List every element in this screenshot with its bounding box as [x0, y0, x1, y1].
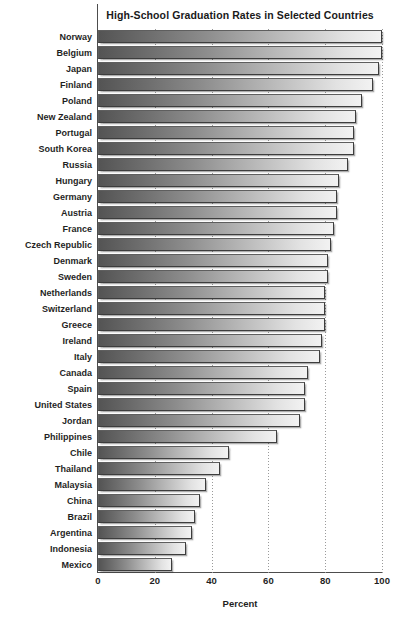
- bar-row: [98, 302, 382, 315]
- category-label-argentina: Argentina: [5, 527, 97, 539]
- bar: [98, 222, 334, 235]
- bar: [98, 398, 305, 411]
- x-tick-20: 20: [150, 575, 161, 586]
- bar-row: [98, 334, 382, 347]
- bar-row: [98, 110, 382, 123]
- category-label-jordan: Jordan: [5, 415, 97, 427]
- category-label-austria: Austria: [5, 207, 97, 219]
- category-label-mexico: Mexico: [5, 559, 97, 571]
- bar-row: [98, 222, 382, 235]
- category-label-russia: Russia: [5, 159, 97, 171]
- bar-row: [98, 526, 382, 539]
- category-label-brazil: Brazil: [5, 511, 97, 523]
- bar: [98, 158, 348, 171]
- category-label-germany: Germany: [5, 191, 97, 203]
- bar-row: [98, 462, 382, 475]
- category-label-denmark: Denmark: [5, 255, 97, 267]
- bar-row: [98, 174, 382, 187]
- bar-row: [98, 494, 382, 507]
- bar-row: [98, 286, 382, 299]
- bar: [98, 286, 325, 299]
- bar-row: [98, 430, 382, 443]
- category-label-spain: Spain: [5, 383, 97, 395]
- bar: [98, 94, 362, 107]
- category-label-ireland: Ireland: [5, 335, 97, 347]
- bar-row: [98, 190, 382, 203]
- bar: [98, 510, 195, 523]
- bar: [98, 126, 354, 139]
- bar: [98, 478, 206, 491]
- bar-row: [98, 158, 382, 171]
- bar: [98, 446, 229, 459]
- category-axis-labels: NorwayBelgiumJapanFinlandPolandNew Zeala…: [0, 29, 97, 573]
- bar-row: [98, 78, 382, 91]
- bar: [98, 366, 308, 379]
- bar: [98, 46, 382, 59]
- category-label-italy: Italy: [5, 351, 97, 363]
- bar-row: [98, 366, 382, 379]
- bar: [98, 382, 305, 395]
- category-label-poland: Poland: [5, 95, 97, 107]
- bar: [98, 206, 337, 219]
- bar: [98, 190, 337, 203]
- bar: [98, 542, 186, 555]
- bar: [98, 526, 192, 539]
- category-label-finland: Finland: [5, 79, 97, 91]
- bar-row: [98, 558, 382, 571]
- bar-row: [98, 126, 382, 139]
- bar-row: [98, 238, 382, 251]
- x-axis-title: Percent: [98, 598, 382, 609]
- category-label-portugal: Portugal: [5, 127, 97, 139]
- x-tick-100: 100: [374, 575, 390, 586]
- category-label-japan: Japan: [5, 63, 97, 75]
- category-label-czech-republic: Czech Republic: [5, 239, 97, 251]
- category-label-canada: Canada: [5, 367, 97, 379]
- x-axis-tick-labels: 020406080100: [98, 575, 382, 591]
- category-label-chile: Chile: [5, 447, 97, 459]
- bar-row: [98, 270, 382, 283]
- bar: [98, 334, 322, 347]
- category-label-switzerland: Switzerland: [5, 303, 97, 315]
- category-label-china: China: [5, 495, 97, 507]
- bar-chart: High-School Graduation Rates in Selected…: [0, 0, 405, 623]
- bar-row: [98, 382, 382, 395]
- bar: [98, 174, 339, 187]
- bar: [98, 62, 379, 75]
- category-label-south-korea: South Korea: [5, 143, 97, 155]
- bar-row: [98, 542, 382, 555]
- x-tick-40: 40: [206, 575, 217, 586]
- category-label-norway: Norway: [5, 31, 97, 43]
- bar-row: [98, 446, 382, 459]
- bar: [98, 142, 354, 155]
- bar: [98, 494, 200, 507]
- category-label-france: France: [5, 223, 97, 235]
- bar-row: [98, 350, 382, 363]
- category-label-united-states: United States: [5, 399, 97, 411]
- bar: [98, 318, 325, 331]
- category-label-sweden: Sweden: [5, 271, 97, 283]
- x-tick-80: 80: [320, 575, 331, 586]
- bar: [98, 254, 328, 267]
- bar-row: [98, 46, 382, 59]
- bar: [98, 430, 277, 443]
- bar-row: [98, 318, 382, 331]
- bar: [98, 414, 300, 427]
- category-label-netherlands: Netherlands: [5, 287, 97, 299]
- plot-area: [98, 29, 382, 573]
- bar-row: [98, 94, 382, 107]
- bar: [98, 238, 331, 251]
- bar: [98, 350, 320, 363]
- bar: [98, 270, 328, 283]
- category-label-malaysia: Malaysia: [5, 479, 97, 491]
- bar-row: [98, 206, 382, 219]
- gridline-100: [382, 29, 383, 573]
- bar: [98, 110, 356, 123]
- bar: [98, 302, 325, 315]
- category-label-belgium: Belgium: [5, 47, 97, 59]
- category-label-new-zealand: New Zealand: [5, 111, 97, 123]
- bar-row: [98, 254, 382, 267]
- bar: [98, 558, 172, 571]
- category-label-hungary: Hungary: [5, 175, 97, 187]
- category-label-philippines: Philippines: [5, 431, 97, 443]
- bar-row: [98, 510, 382, 523]
